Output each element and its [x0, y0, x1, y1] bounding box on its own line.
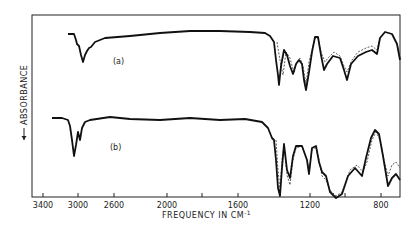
x-tick-label: 800	[373, 201, 388, 210]
x-tick-label: 3400	[33, 201, 53, 210]
x-tick-label: 2600	[104, 201, 124, 210]
svg-text:ABSORBANCE: ABSORBANCE	[20, 65, 29, 125]
x-tick-label: 1200	[300, 201, 320, 210]
y-axis-label: ABSORBANCE	[20, 65, 29, 140]
arrow-icon	[22, 136, 27, 140]
spectrum-b-dashed	[276, 132, 400, 196]
ir-spectrum-chart: 3400 3000 2600 2000 1600 1200 800 FREQUE…	[0, 0, 419, 229]
x-ticks	[43, 193, 381, 197]
x-tick-label: 3000	[68, 201, 88, 210]
series-label-b: (b)	[110, 143, 121, 152]
series-label-a: (a)	[113, 57, 124, 66]
x-axis-label: FREQUENCY IN CM-1	[162, 209, 251, 220]
x-tick-label: 2000	[157, 201, 177, 210]
spectrum-b	[52, 117, 400, 198]
plot-frame	[32, 15, 400, 197]
